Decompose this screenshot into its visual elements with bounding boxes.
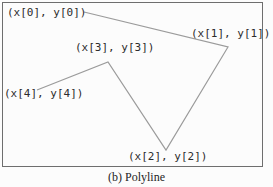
vertex-label-0: (x[0], y[0]) bbox=[7, 6, 86, 20]
figure-caption: (b) Polyline bbox=[0, 170, 273, 185]
figure-polyline: (x[0], y[0]) (x[1], y[1]) (x[3], y[3]) (… bbox=[0, 0, 273, 187]
vertex-label-1: (x[1], y[1]) bbox=[191, 27, 270, 41]
vertex-label-4: (x[4], y[4]) bbox=[4, 87, 83, 101]
vertex-label-3: (x[3], y[3]) bbox=[75, 41, 154, 55]
vertex-label-2: (x[2], y[2]) bbox=[128, 150, 207, 164]
